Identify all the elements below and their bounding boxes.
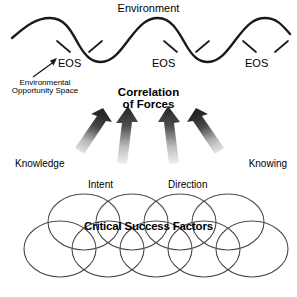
correlation-line-2: of Forces [123, 98, 175, 110]
force-arrow-knowing [187, 108, 224, 154]
correlation-line-1: Correlation [118, 86, 179, 98]
force-arrow-direction [158, 106, 180, 164]
force-arrows [75, 106, 224, 164]
environment-title: Environment [0, 3, 297, 15]
force-label-knowledge: Knowledge [15, 159, 64, 170]
eos-label-2: EOS [152, 58, 175, 70]
force-label-intent: Intent [88, 180, 113, 191]
force-arrow-intent [116, 106, 138, 164]
environment-wave [12, 18, 290, 62]
eos-label-3: EOS [245, 58, 268, 70]
eos-label-1: EOS [58, 58, 81, 70]
environmental-opportunity-space-annotation: Environmental Opportunity Space [2, 79, 88, 96]
critical-success-factors-label: Critical Success Factors [0, 220, 297, 232]
force-label-knowing: Knowing [249, 159, 287, 170]
force-arrow-knowledge [75, 108, 112, 154]
force-label-direction: Direction [168, 180, 207, 191]
eos-annotation-arrow [33, 58, 57, 77]
diagram-canvas: Environment EOS EOS EOS Environmental Op… [0, 0, 297, 297]
eos-annotation-line-2: Opportunity Space [12, 86, 78, 95]
diagram-graphics [0, 0, 297, 297]
correlation-of-forces-title: Correlation of Forces [98, 86, 199, 110]
critical-success-factors-circles [24, 194, 288, 277]
eos-tick-marks [57, 41, 288, 52]
